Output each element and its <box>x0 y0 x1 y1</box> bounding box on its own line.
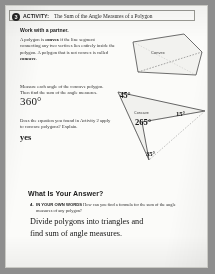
activity-header-bar: 3 ACTIVITY: The Sum of the Angle Measure… <box>9 10 195 21</box>
measure-prompt-line-1: Measure each angle of the concave polygo… <box>20 84 103 89</box>
work-with-partner-heading: Work with a partner. <box>20 27 69 33</box>
definition-term-convex: convex <box>45 37 59 42</box>
apply-equation-prompt: Does the equation you found in Activity … <box>20 118 114 131</box>
angle-label-45: 45° <box>120 91 131 100</box>
convex-polygon-diagram <box>126 30 208 80</box>
concave-polygon-shape <box>118 92 205 160</box>
definition-term-concave: concave <box>20 56 36 61</box>
concave-shape-label: Concave <box>134 111 149 115</box>
answer-final-response: Divide polygons into triangles and find … <box>30 216 190 239</box>
definition-text-3: A polygon that is not convex is called <box>37 50 108 55</box>
question-4-text: IN YOUR OWN WORDS How can you find a for… <box>36 202 186 213</box>
angle-label-35: 35° <box>146 150 155 157</box>
activity-number-badge: 3 <box>12 13 20 21</box>
answer-final-line-1: Divide polygons into triangles and <box>30 216 190 228</box>
question-number: 4. <box>30 202 34 207</box>
answer-applies-to-concave: yes <box>20 132 31 142</box>
convex-polygon-shape <box>133 34 202 75</box>
answer-angle-sum: 360° <box>20 95 42 107</box>
definition-text-3b: . <box>36 56 37 61</box>
apply-prompt-line-1: Does the equation you found in Activity … <box>20 118 99 123</box>
question-caps-label: IN YOUR OWN WORDS <box>36 202 82 207</box>
answer-final-line-2: find sum of angle measures. <box>30 228 190 240</box>
concave-polygon-diagram <box>102 80 208 172</box>
workbook-page: 3 ACTIVITY: The Sum of the Angle Measure… <box>5 5 208 268</box>
convex-shape-label: Convex <box>151 50 165 55</box>
angle-label-15: 15° <box>176 110 185 117</box>
convex-definition-paragraph: A polygon is convex if the line segment … <box>20 37 116 62</box>
what-is-your-answer-heading: What Is Your Answer? <box>28 190 103 197</box>
activity-title: The Sum of the Angle Measures of a Polyg… <box>54 13 153 19</box>
definition-text-1: A polygon is <box>20 37 45 42</box>
activity-label: ACTIVITY: <box>23 13 49 19</box>
angle-label-265: 265° <box>135 117 151 127</box>
